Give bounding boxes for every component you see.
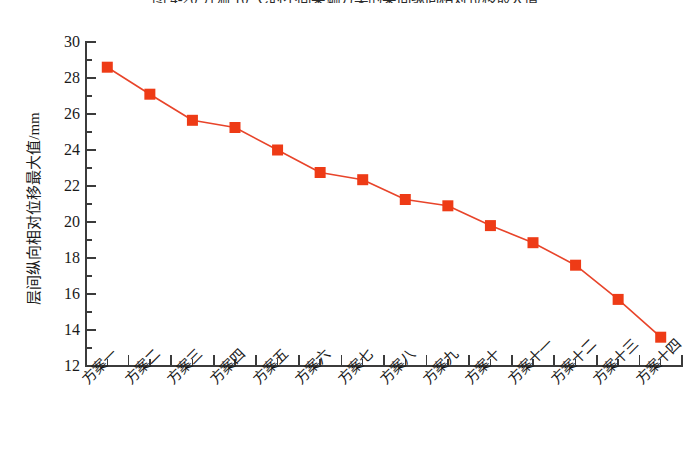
x-tick-label: 方案十四 — [634, 337, 684, 387]
y-tick-minor — [87, 275, 92, 276]
data-point-marker — [144, 89, 155, 100]
x-tick-major — [681, 355, 683, 366]
y-tick-minor — [87, 203, 92, 204]
y-tick-minor — [87, 59, 92, 60]
y-tick-label: 20 — [40, 214, 80, 230]
y-tick-label: 12 — [40, 358, 80, 374]
x-tick-label: 方案十一 — [506, 337, 556, 387]
data-point-marker — [655, 332, 666, 343]
data-point-marker — [485, 220, 496, 231]
y-tick-major — [87, 257, 96, 259]
data-point-marker — [613, 294, 624, 305]
x-tick-major — [639, 355, 641, 366]
y-tick-minor — [87, 347, 92, 348]
y-tick-minor — [87, 167, 92, 168]
data-point-marker — [230, 122, 241, 133]
y-tick-major — [87, 77, 96, 79]
y-tick-minor — [87, 131, 92, 132]
data-point-marker — [187, 115, 198, 126]
chart-figure: 层间纵向相对位移最大值/mm 30282624222018161412 方案一方… — [0, 0, 691, 459]
y-tick-major — [87, 221, 96, 223]
data-point-marker — [442, 200, 453, 211]
y-tick-label: 24 — [40, 142, 80, 158]
y-tick-major — [87, 185, 96, 187]
x-tick-major — [596, 355, 598, 366]
x-tick-major — [213, 355, 215, 366]
x-tick-major — [298, 355, 300, 366]
data-point-marker — [102, 62, 113, 73]
x-tick-major — [170, 355, 172, 366]
series-markers — [102, 62, 666, 343]
x-tick-label: 方案十二 — [548, 337, 598, 387]
y-tick-label: 18 — [40, 250, 80, 266]
data-point-marker — [570, 260, 581, 271]
data-point-marker — [528, 237, 539, 248]
data-series-layer — [0, 0, 691, 459]
y-tick-label: 28 — [40, 70, 80, 86]
data-point-marker — [272, 145, 283, 156]
x-tick-major — [553, 355, 555, 366]
y-tick-major — [87, 293, 96, 295]
x-tick-major — [426, 355, 428, 366]
y-tick-minor — [87, 95, 92, 96]
series-line — [107, 67, 660, 337]
y-tick-label: 14 — [40, 322, 80, 338]
y-tick-major — [87, 149, 96, 151]
y-tick-minor — [87, 239, 92, 240]
x-tick-major — [341, 355, 343, 366]
y-tick-major — [87, 113, 96, 115]
x-tick-major — [511, 355, 513, 366]
data-point-marker — [315, 167, 326, 178]
y-tick-minor — [87, 311, 92, 312]
x-tick-major — [468, 355, 470, 366]
x-tick-major — [255, 355, 257, 366]
y-tick-label: 16 — [40, 286, 80, 302]
y-axis-title: 层间纵向相对位移最大值/mm — [22, 49, 43, 369]
data-point-marker — [400, 194, 411, 205]
x-tick-label: 方案十三 — [591, 337, 641, 387]
y-tick-label: 22 — [40, 178, 80, 194]
x-tick-major — [85, 355, 87, 366]
y-tick-label: 26 — [40, 106, 80, 122]
x-tick-major — [383, 355, 385, 366]
y-tick-major — [87, 329, 96, 331]
y-tick-label: 30 — [40, 34, 80, 50]
x-tick-major — [128, 355, 130, 366]
data-point-marker — [357, 174, 368, 185]
y-tick-major — [87, 41, 96, 43]
